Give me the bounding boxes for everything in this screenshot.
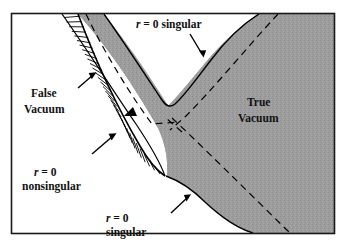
diagram-svg: r = 0 singular r = 0 singular r = 0 nons… xyxy=(0,0,346,244)
penrose-diagram-figure: r = 0 singular r = 0 singular r = 0 nons… xyxy=(0,0,346,244)
label-false-vacuum-line2: Vacuum xyxy=(24,103,65,115)
label-top-singular-rest: = 0 singular xyxy=(140,18,201,31)
label-true-vacuum-line1: True xyxy=(247,96,270,108)
label-nonsingular-eq: = 0 xyxy=(38,166,56,178)
label-nonsingular-line2: nonsingular xyxy=(22,180,81,193)
label-bottom-singular-line1: r = 0 xyxy=(106,212,129,224)
label-bottom-singular-line2: singular xyxy=(106,226,146,239)
label-true-vacuum-line2: Vacuum xyxy=(238,112,279,124)
label-top-singular: r = 0 singular xyxy=(136,18,202,31)
label-bottom-singular-eq: = 0 xyxy=(110,212,128,224)
label-false-vacuum-line1: False xyxy=(31,87,57,99)
label-nonsingular-line1: r = 0 xyxy=(34,166,57,178)
